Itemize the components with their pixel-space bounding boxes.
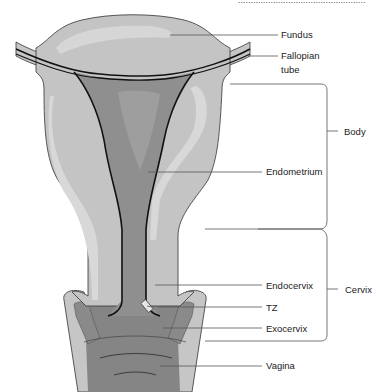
vagina-lumen [86,306,182,392]
uterus-illustration [0,0,384,392]
label-fundus: Fundus [281,29,313,40]
label-tz: TZ [266,302,278,313]
label-vagina: Vagina [266,360,295,371]
label-body: Body [344,126,366,137]
label-exocervix: Exocervix [266,323,307,334]
cropped-caption: ........................................… [238,0,366,5]
label-fallopian-line2: tube [281,64,300,75]
label-fallopian-line1: Fallopian [281,50,320,61]
label-endometrium: Endometrium [266,166,323,177]
label-endocervix: Endocervix [266,280,313,291]
label-cervix: Cervix [345,284,372,295]
body-bracket [258,84,327,229]
uterus-diagram: ........................................… [0,0,384,392]
